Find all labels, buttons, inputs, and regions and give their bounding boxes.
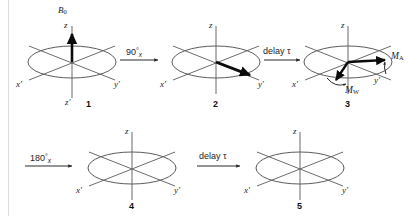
- stage-4-frame: [88, 132, 176, 200]
- stage-1-z-prime-axis-label: z′: [65, 98, 70, 107]
- stage-2-number: 2: [213, 100, 218, 109]
- stage-3-ma-vector-label: MA: [391, 52, 404, 62]
- stage-4-z-axis-label: z: [125, 127, 129, 136]
- stage-4-y-axis-label: y′: [174, 186, 180, 195]
- stage-2-x-axis-label: x′: [160, 80, 166, 89]
- stage-2-y-axis-label: y′: [258, 80, 264, 89]
- stage-4-x-axis-label: x′: [76, 186, 82, 195]
- stage-3-ma-rotation-arrow: [384, 62, 386, 74]
- pulse-90x-label: 90°x: [126, 47, 142, 58]
- stage-3-mw-vector-label: MW: [345, 86, 359, 96]
- stage-3-x-axis-label: x′: [292, 80, 298, 89]
- stage-1-z-axis-label: z: [64, 21, 68, 30]
- stage-1-number: 1: [86, 100, 91, 109]
- stage-5-frame: [256, 132, 344, 200]
- stage-5-y-axis-label: y′: [342, 186, 348, 195]
- stage-3-number: 3: [345, 100, 350, 109]
- stage-2-magnetization-vector: [216, 62, 250, 75]
- stage-5-x-axis-label: x′: [244, 186, 250, 195]
- pulse-180x-label: 180°x: [30, 153, 51, 164]
- spin-echo-figure: [0, 0, 412, 216]
- stage-4-number: 4: [129, 202, 134, 211]
- stage-3-vector-ma: [348, 60, 385, 62]
- delay-tau-1-label: delay τ: [263, 47, 291, 56]
- stage-3-z-axis-label: z: [341, 21, 345, 30]
- stage-3-y-axis-label: y′: [374, 76, 380, 85]
- stage-3-vector-mw: [336, 62, 348, 80]
- stage-2-frame: [172, 26, 260, 94]
- stage-5-z-axis-label: z: [293, 127, 297, 136]
- b0-field-label: B0: [58, 6, 67, 16]
- stage-1-y-axis-label: y′: [114, 80, 120, 89]
- stage-5-number: 5: [297, 202, 302, 211]
- delay-tau-2-label: delay τ: [199, 152, 227, 161]
- stage-1-x-axis-label: x′: [16, 80, 22, 89]
- stage-2-z-axis-label: z: [209, 21, 213, 30]
